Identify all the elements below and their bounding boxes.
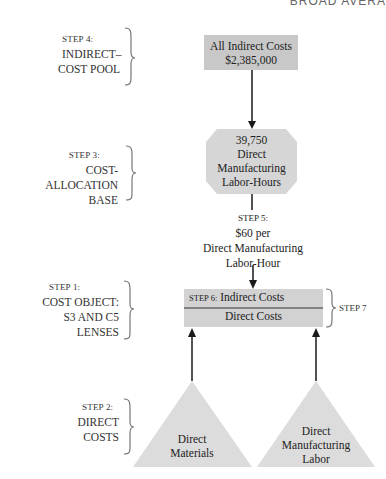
step5-title: STEP 5:: [190, 211, 316, 226]
step5-rate: STEP 5: $60 per Direct Manufacturing Lab…: [190, 211, 316, 271]
step2-title: STEP 2:: [60, 400, 119, 415]
step1-line3: LENSES: [30, 325, 119, 340]
step2-line2: COSTS: [60, 430, 119, 445]
allocation-base-text: 39,750 Direct Manufacturing Labor-Hours: [206, 133, 297, 189]
allocation-base-line3: Manufacturing: [206, 161, 297, 175]
direct-labor-line3: Labor: [266, 452, 366, 466]
direct-labor-text: Direct Manufacturing Labor: [266, 424, 366, 466]
step1-line2: S3 AND C5: [30, 310, 119, 325]
step5-line2: Direct Manufacturing: [190, 241, 316, 256]
cost-pool-text: All Indirect Costs $2,385,000: [204, 39, 298, 67]
step1-title: STEP 1:: [30, 280, 119, 295]
step3-label: STEP 3: COST-ALLOCATION BASE: [18, 148, 118, 208]
cost-object-indirect-row: STEP 6: Indirect Costs: [189, 291, 284, 303]
direct-materials-line1: Direct: [152, 432, 232, 446]
cost-object-direct-row: Direct Costs: [184, 310, 323, 322]
step3-line1: COST-ALLOCATION: [18, 163, 118, 193]
step2-line1: DIRECT: [60, 415, 119, 430]
step3-line2: BASE: [18, 193, 118, 208]
step5-line3: Labor-Hour: [190, 256, 316, 271]
step2-bracket: [124, 399, 134, 454]
direct-costs-label: Direct Costs: [225, 310, 282, 322]
allocation-base-quantity: 39,750: [206, 133, 297, 147]
step3-bracket: [126, 146, 136, 200]
direct-labor-line2: Manufacturing: [266, 438, 366, 452]
step4-line2: COST POOL: [58, 62, 121, 77]
step4-line1: INDIRECT–: [58, 47, 121, 62]
step2-label: STEP 2: DIRECT COSTS: [60, 400, 119, 445]
direct-labor-line1: Direct: [266, 424, 366, 438]
step7-label: STEP 7: [339, 303, 366, 313]
direct-materials-line2: Materials: [152, 446, 232, 460]
step1-line1: COST OBJECT:: [30, 295, 119, 310]
step4-label: STEP 4: INDIRECT– COST POOL: [58, 32, 121, 77]
step1-bracket: [124, 281, 134, 339]
step3-title: STEP 3:: [18, 148, 118, 163]
allocation-base-line4: Labor-Hours: [206, 175, 297, 189]
step7-bracket: [326, 289, 336, 327]
indirect-costs-label: Indirect Costs: [220, 291, 284, 303]
direct-materials-text: Direct Materials: [152, 432, 232, 460]
step5-rate-value: $60 per: [190, 226, 316, 241]
allocation-base-line2: Direct: [206, 147, 297, 161]
cost-pool-title: All Indirect Costs: [204, 39, 298, 53]
step4-bracket: [125, 28, 135, 85]
cost-pool-amount: $2,385,000: [204, 53, 298, 67]
step6-label: STEP 6:: [189, 293, 217, 303]
step4-title: STEP 4:: [58, 32, 121, 47]
step1-label: STEP 1: COST OBJECT: S3 AND C5 LENSES: [30, 280, 119, 340]
